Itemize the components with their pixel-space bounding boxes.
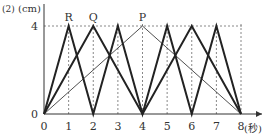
x-axis-arrow-icon [256,111,262,117]
y-tick-label: 4 [31,20,38,33]
x-tick-label: 6 [188,120,195,133]
y-axis-label: (cm) [18,3,41,14]
x-tick-label: 1 [65,120,72,133]
point-label-R: R [64,11,73,24]
x-tick-label: 4 [139,120,146,133]
x-tick-label: 7 [213,120,220,133]
x-axis-label: (秒) [244,122,262,134]
x-tick-label: 2 [90,120,97,133]
point-label-Q: Q [89,11,98,24]
y-tick-label: 0 [31,108,38,121]
point-label-P: P [139,11,147,24]
x-tick-label: 0 [41,120,48,133]
problem-label: (2) [2,4,15,14]
chart: 01234567840RQP(2)(cm)(秒) [0,0,268,139]
x-tick-label: 3 [114,120,121,133]
x-tick-label: 5 [164,120,171,133]
